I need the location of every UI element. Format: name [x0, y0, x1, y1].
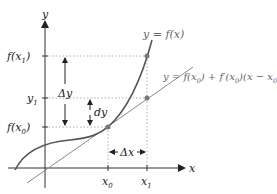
tick-label-y1: y1 [26, 92, 38, 107]
delta-x-label: Δx [119, 146, 135, 159]
y-axis-label: y [41, 8, 49, 21]
tick-label-x1: x1 [141, 175, 152, 190]
point-x0 [106, 125, 111, 130]
tangent-label: y = f(x0) + f′(x0)(x − x0) [162, 71, 277, 85]
point-x1-tangent [145, 96, 150, 101]
x-axis-label: x [189, 162, 196, 175]
delta-y-label: Δy [57, 87, 73, 100]
point-x1-curve [145, 54, 150, 59]
tick-label-x0: x0 [102, 175, 113, 190]
linear-approximation-diagram: y x f(x1) y1 f(x0) x0 x1 Δy dy Δx y = f(… [0, 0, 277, 194]
dy-label: dy [94, 106, 108, 119]
tick-label-f-x0: f(x0) [6, 121, 30, 136]
tick-label-f-x1: f(x1) [6, 50, 30, 65]
curve-label: y = f(x) [142, 28, 184, 41]
points [106, 54, 150, 130]
